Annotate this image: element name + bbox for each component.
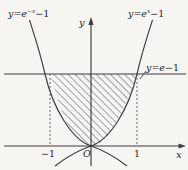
coordinate-plot — [0, 0, 188, 170]
label-hline-tail: −1 — [165, 62, 179, 73]
x-axis-label: x — [176, 150, 182, 160]
x-tick-label-pos1: 1 — [134, 149, 140, 159]
label-right-curve: y=ex−1 — [128, 9, 164, 19]
shaded-region — [45, 70, 143, 152]
y-axis-label: y — [79, 18, 85, 28]
label-horizontal-line: y=e−1 — [146, 63, 179, 73]
label-left-curve-exponent: −x — [27, 8, 35, 14]
label-left-curve: y=e−x−1 — [8, 9, 49, 19]
x-tick-label-neg1: −1 — [41, 149, 55, 159]
math-figure: y=e−x−1 y=ex−1 y=e−1 y x O −1 1 — [0, 0, 188, 170]
label-left-curve-tail: −1 — [35, 8, 49, 19]
label-right-curve-tail: −1 — [150, 8, 164, 19]
origin-label: O — [83, 149, 91, 159]
